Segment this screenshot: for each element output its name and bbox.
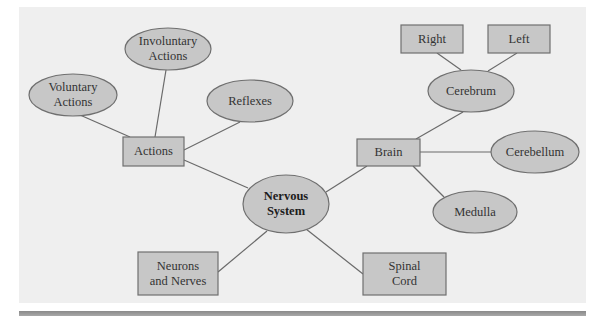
node-brain: Brain: [357, 139, 420, 166]
edge-actions-voluntary: [80, 115, 130, 137]
node-label-line1: Spinal: [389, 259, 421, 274]
edge-nervous-neurons: [218, 231, 267, 272]
node-label-line2: and Nerves: [150, 274, 207, 289]
node-label-line1: Neurons: [157, 259, 199, 274]
bottom-divider: [19, 311, 586, 316]
edge-cerebrum-left: [488, 53, 517, 71]
node-label-line2: Actions: [54, 95, 93, 110]
node-cerebrum: Cerebrum: [428, 70, 514, 112]
edge-nervous-brain: [326, 166, 367, 192]
node-label-line1: Nervous: [264, 189, 308, 204]
node-label: Cerebellum: [506, 145, 564, 160]
node-label: Brain: [375, 145, 403, 160]
node-medulla: Medulla: [433, 191, 517, 233]
node-label: Left: [509, 32, 530, 47]
node-nervous-system: Nervous System: [243, 175, 329, 233]
node-label-line2: Actions: [149, 49, 188, 64]
node-label: Right: [418, 32, 446, 47]
node-label: Medulla: [454, 205, 496, 220]
node-right: Right: [401, 25, 463, 53]
node-neurons-and-nerves: Neurons and Nerves: [138, 252, 218, 295]
node-label-line2: System: [267, 204, 305, 219]
edge-actions-reflexes: [184, 122, 240, 150]
edge-actions-involuntary: [155, 70, 166, 137]
node-label-line1: Involuntary: [139, 34, 197, 49]
node-label-line1: Voluntary: [48, 80, 97, 95]
node-involuntary-actions: Involuntary Actions: [125, 28, 211, 70]
node-left: Left: [488, 25, 550, 53]
node-label-line2: Cord: [392, 274, 417, 289]
node-voluntary-actions: Voluntary Actions: [29, 74, 117, 116]
node-label: Actions: [134, 144, 173, 159]
edge-nervous-actions: [184, 160, 248, 188]
node-label: Cerebrum: [446, 84, 496, 99]
edge-brain-cerebrum: [416, 112, 463, 139]
node-label: Reflexes: [228, 94, 272, 109]
node-reflexes: Reflexes: [207, 80, 293, 122]
edge-nervous-spinal: [306, 229, 363, 274]
node-spinal-cord: Spinal Cord: [363, 253, 446, 295]
node-actions: Actions: [123, 137, 184, 166]
edge-cerebrum-right: [437, 53, 461, 70]
node-cerebellum: Cerebellum: [491, 131, 579, 173]
